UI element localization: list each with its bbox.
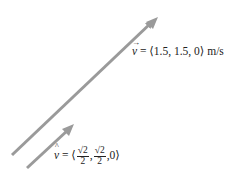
unit-vector-label: ^v = ⟨√22,√22,0⟩ xyxy=(54,146,120,166)
equals-sign: = xyxy=(59,149,71,161)
fraction-2: √22 xyxy=(94,146,106,166)
hat-accent-icon: ^ xyxy=(55,143,59,151)
open-bracket: ⟨ xyxy=(71,149,76,161)
vector-diagram xyxy=(0,0,241,173)
vector-arrow-accent-icon: → xyxy=(132,39,140,47)
velocity-value: ⟨1.5, 1.5, 0⟩ xyxy=(149,45,204,57)
velocity-units: m/s xyxy=(204,45,224,57)
fraction-1: √22 xyxy=(77,146,89,166)
close-bracket: ⟩ xyxy=(115,149,120,161)
velocity-label: →v = ⟨1.5, 1.5, 0⟩ m/s xyxy=(132,46,224,58)
velocity-symbol: →v xyxy=(132,46,137,58)
unit-vector-symbol: ^v xyxy=(54,150,59,162)
velocity-vector-arrow xyxy=(12,22,152,155)
